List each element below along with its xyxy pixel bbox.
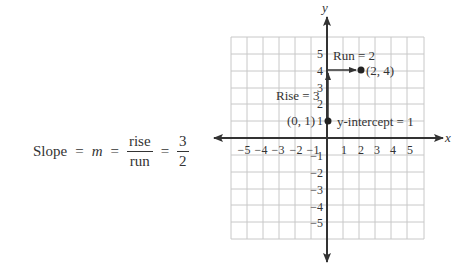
svg-text:5: 5 xyxy=(317,47,323,61)
x-axis-label: x xyxy=(444,130,451,145)
intercept-label: y-intercept = 1 xyxy=(337,114,414,129)
svg-text:4: 4 xyxy=(390,143,396,157)
svg-text:−4: −4 xyxy=(310,200,323,214)
point-2-4 xyxy=(358,67,365,74)
svg-text:−5: −5 xyxy=(238,143,251,157)
svg-text:−2: −2 xyxy=(290,143,303,157)
point-a-label: (0, 1) xyxy=(287,113,315,128)
svg-text:1: 1 xyxy=(317,114,323,128)
svg-text:−3: −3 xyxy=(310,183,323,197)
y-axis-label: y xyxy=(320,0,328,15)
svg-text:2: 2 xyxy=(358,143,364,157)
svg-text:−3: −3 xyxy=(272,143,285,157)
point-b-label: (2, 4) xyxy=(366,63,394,78)
svg-text:1: 1 xyxy=(341,143,347,157)
svg-text:−4: −4 xyxy=(255,143,268,157)
svg-text:5: 5 xyxy=(407,143,413,157)
coordinate-graph: x y −5 −4 −3 −2 −1 1 2 3 4 5 1 2 3 4 5 −… xyxy=(0,0,458,273)
rise-label: Rise = 3 xyxy=(276,88,319,103)
svg-text:−1: −1 xyxy=(310,149,323,163)
svg-text:3: 3 xyxy=(374,143,380,157)
svg-text:4: 4 xyxy=(317,64,323,78)
svg-text:−5: −5 xyxy=(310,216,323,230)
point-0-1 xyxy=(325,118,332,125)
run-label: Run = 2 xyxy=(333,48,375,63)
svg-text:−2: −2 xyxy=(310,166,323,180)
